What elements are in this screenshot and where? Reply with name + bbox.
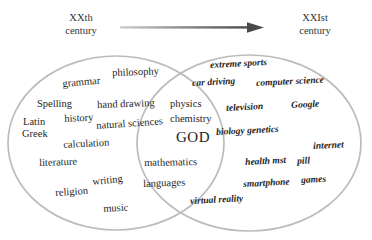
xxist-century-word: pill — [297, 156, 310, 166]
era-left-line1: XXth — [50, 12, 112, 25]
intersection-word: mathematics — [144, 157, 197, 168]
xxist-century-word: Google — [291, 100, 319, 111]
xxth-century-word: Latin — [23, 117, 45, 128]
xxth-century-word: Spelling — [37, 99, 72, 110]
intersection-word: chemistry — [170, 114, 211, 125]
xxth-century-word: history — [64, 112, 94, 124]
xxth-century-word: Greek — [22, 129, 48, 140]
era-left-line2: century — [50, 25, 112, 38]
intersection-word: GOD — [176, 130, 210, 145]
xxist-century-word: internet — [313, 140, 344, 151]
venn-word-cloud-figure: XXth century XXIst century — [0, 0, 372, 240]
xxist-century-word: games — [301, 175, 326, 186]
intersection-word: physics — [170, 99, 202, 110]
xxist-century-word: television — [226, 102, 263, 113]
intersection-word: languages — [143, 178, 185, 190]
xxth-century-word: music — [103, 203, 129, 215]
xxth-century-word: philosophy — [112, 66, 159, 78]
era-label-left: XXth century — [50, 12, 112, 37]
arrow-right-icon — [118, 18, 268, 38]
era-right-line1: XXIst — [282, 12, 348, 25]
era-label-right: XXIst century — [282, 12, 348, 37]
time-arrow-container — [118, 18, 268, 38]
era-right-line2: century — [282, 25, 348, 38]
xxth-century-word: literature — [39, 157, 77, 169]
xxth-century-word: hand drawing — [97, 98, 155, 110]
